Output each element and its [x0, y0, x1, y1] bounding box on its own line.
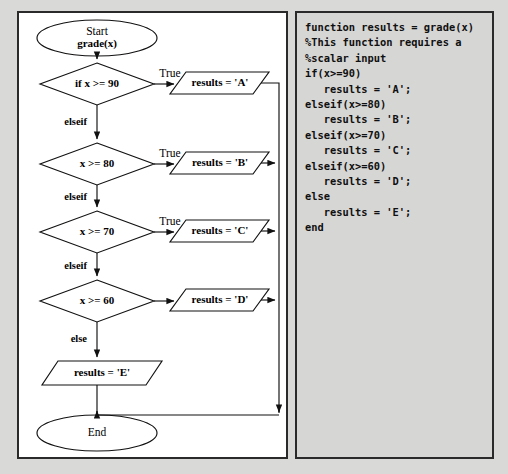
start-terminator-shape — [37, 20, 157, 56]
process-shape-C — [170, 220, 269, 242]
process-shape-A — [170, 72, 269, 94]
flowchart-diagram — [19, 13, 286, 457]
figure-root: Start grade(x) if x >= 90 x >= 80 x >= 7… — [0, 0, 508, 474]
decision-shape-2 — [40, 143, 154, 185]
flowchart-panel: Start grade(x) if x >= 90 x >= 80 x >= 7… — [17, 11, 288, 459]
code-panel: function results = grade(x) %This functi… — [295, 11, 494, 459]
process-shape-B — [170, 152, 269, 174]
matlab-source-code: function results = grade(x) %This functi… — [305, 20, 488, 236]
end-terminator-shape — [37, 415, 157, 451]
process-shape-E — [42, 361, 162, 385]
process-shape-D — [170, 289, 269, 311]
decision-shape-1 — [40, 63, 154, 105]
decision-shape-3 — [40, 211, 154, 253]
connector-processA-to-spine — [261, 83, 279, 413]
decision-shape-4 — [40, 280, 154, 322]
